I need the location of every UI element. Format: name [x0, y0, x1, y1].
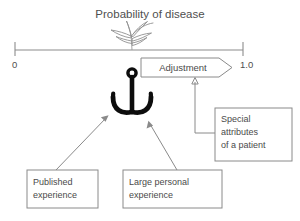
- published-experience-callout[interactable]: Published experience: [27, 170, 98, 208]
- published-experience-arrow: [56, 115, 109, 170]
- published-experience-line1: Published: [33, 177, 73, 187]
- diagram-canvas: Probability of disease 0 1.0: [0, 0, 300, 221]
- special-attributes-line1: Special: [221, 114, 251, 124]
- sprout-icon: [111, 21, 153, 50]
- adjustment-callout[interactable]: Adjustment: [141, 58, 232, 77]
- anchor-ring: [128, 69, 136, 77]
- special-attributes-line2: attributes: [221, 127, 259, 137]
- published-experience-line2: experience: [33, 190, 77, 200]
- special-attributes-callout[interactable]: Special attributes of a patient: [215, 108, 292, 161]
- large-personal-line2: experience: [129, 190, 173, 200]
- large-personal-arrow-line: [150, 124, 177, 170]
- large-personal-line1: Large personal: [129, 177, 189, 187]
- published-experience-box: [27, 170, 98, 208]
- connector-path: [195, 82, 215, 133]
- published-arrow-head: [101, 115, 109, 121]
- axis-label-max: 1.0: [240, 59, 253, 70]
- probability-of-disease-diagram: Probability of disease 0 1.0: [0, 0, 300, 221]
- special-attributes-connector: [192, 78, 215, 134]
- anchor-arm-right: [133, 97, 152, 113]
- large-personal-experience-box: [123, 170, 222, 208]
- figure-title: Probability of disease: [95, 8, 204, 20]
- special-attributes-line3: of a patient: [221, 140, 266, 150]
- adjustment-label: Adjustment: [159, 62, 207, 73]
- large-personal-experience-callout[interactable]: Large personal experience: [123, 170, 222, 208]
- anchor-arm-left: [113, 97, 132, 113]
- large-personal-experience-arrow: [147, 121, 177, 170]
- axis-label-min: 0: [12, 59, 17, 70]
- published-arrow-line: [56, 118, 106, 170]
